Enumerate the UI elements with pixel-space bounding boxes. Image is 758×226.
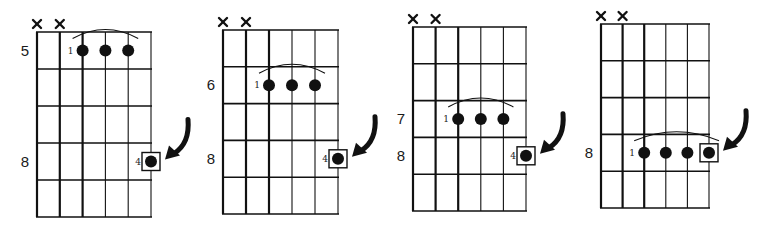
finger-dot [475, 113, 487, 125]
finger-number-label: 1 [254, 80, 260, 90]
chord-diagram: 6814 [207, 18, 375, 214]
finger-number-label: 4 [510, 151, 516, 161]
string-lines [223, 30, 338, 214]
muted-string-x-icon [242, 18, 250, 26]
finger-number-label: 4 [322, 154, 328, 164]
finger-dot [309, 79, 321, 91]
finger-dot [263, 79, 275, 91]
muted-string-x-icon [219, 18, 227, 26]
finger-dot [145, 156, 157, 168]
muted-string-x-icon [597, 12, 605, 20]
string-lines [601, 24, 709, 208]
curved-arrow-icon [723, 111, 746, 151]
curved-arrow-icon [352, 117, 375, 157]
highlighted-note: 4 [322, 150, 347, 168]
finger-dot [452, 113, 464, 125]
chord-diagram: 7814 [397, 15, 563, 211]
finger-dot [703, 147, 715, 159]
finger-dot [520, 150, 532, 162]
curved-arrow-icon [540, 114, 563, 154]
fret-number-label: 8 [585, 144, 593, 161]
fret-number-label: 7 [397, 110, 405, 127]
muted-string-x-icon [619, 12, 627, 20]
highlighted-note [700, 144, 718, 162]
fret-lines [222, 30, 339, 214]
finger-dot [286, 79, 298, 91]
fret-lines [412, 27, 527, 211]
highlighted-note: 4 [510, 147, 535, 165]
finger-number-label: 1 [443, 114, 449, 124]
finger-dot [681, 147, 693, 159]
finger-dot [497, 113, 509, 125]
fret-number-label: 5 [21, 42, 29, 59]
finger-dot [332, 153, 344, 165]
finger-dot [77, 45, 89, 57]
muted-string-x-icon [33, 20, 41, 28]
chord-diagrams-svg: 58146814781481 [0, 0, 758, 226]
fret-lines [600, 24, 710, 208]
muted-string-x-icon [409, 15, 417, 23]
fret-number-label: 8 [397, 147, 405, 164]
muted-string-x-icon [56, 20, 64, 28]
finger-dot [660, 147, 672, 159]
finger-number-label: 4 [135, 157, 141, 167]
fret-number-label: 6 [207, 76, 215, 93]
finger-number-label: 1 [629, 148, 635, 158]
finger-dot [122, 45, 134, 57]
muted-string-x-icon [432, 15, 440, 23]
finger-dot [99, 45, 111, 57]
fret-lines [36, 32, 152, 217]
highlighted-note: 4 [135, 153, 160, 171]
finger-number-label: 1 [68, 46, 74, 56]
barre-arc [634, 132, 719, 141]
finger-dot [638, 147, 650, 159]
string-lines [37, 32, 151, 217]
fret-number-label: 8 [207, 150, 215, 167]
chord-diagram: 81 [585, 12, 746, 208]
chord-diagram: 5814 [21, 20, 188, 217]
fret-number-label: 8 [21, 153, 29, 170]
curved-arrow-icon [165, 120, 188, 160]
